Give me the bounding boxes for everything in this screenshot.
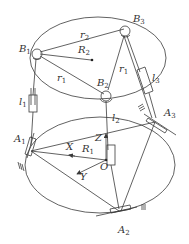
- label-r2: r2: [80, 30, 89, 42]
- label-A2: A2: [118, 225, 130, 237]
- mechanism-diagram: B1 B2 B3 r2 r1 r1 R2 l1 l2 l3 A1 A2 A3 R…: [0, 0, 189, 244]
- label-origin-O: O: [100, 162, 108, 172]
- label-r1-left: r1: [57, 73, 66, 85]
- label-r1-right: r1: [119, 64, 128, 76]
- joint-B3-icon: [120, 26, 130, 37]
- platform-center-dot: [91, 59, 94, 62]
- label-Y-axis: Y: [80, 172, 87, 182]
- diagram-drawing: [0, 0, 189, 244]
- label-l2: l2: [112, 113, 120, 125]
- label-R2: R2: [78, 45, 90, 57]
- joint-B2-icon: [100, 91, 112, 102]
- label-A3: A3: [164, 108, 176, 120]
- label-l1: l1: [19, 97, 27, 109]
- label-B3: B3: [133, 14, 145, 26]
- label-B1: B1: [19, 44, 31, 56]
- label-Z-axis: Z: [95, 133, 102, 143]
- label-l3: l3: [152, 73, 160, 85]
- label-A1: A1: [14, 134, 26, 146]
- label-B2: B2: [97, 78, 109, 90]
- label-R1: R1: [82, 144, 94, 156]
- leg-1: [29, 59, 37, 145]
- label-X-axis: X: [66, 142, 73, 152]
